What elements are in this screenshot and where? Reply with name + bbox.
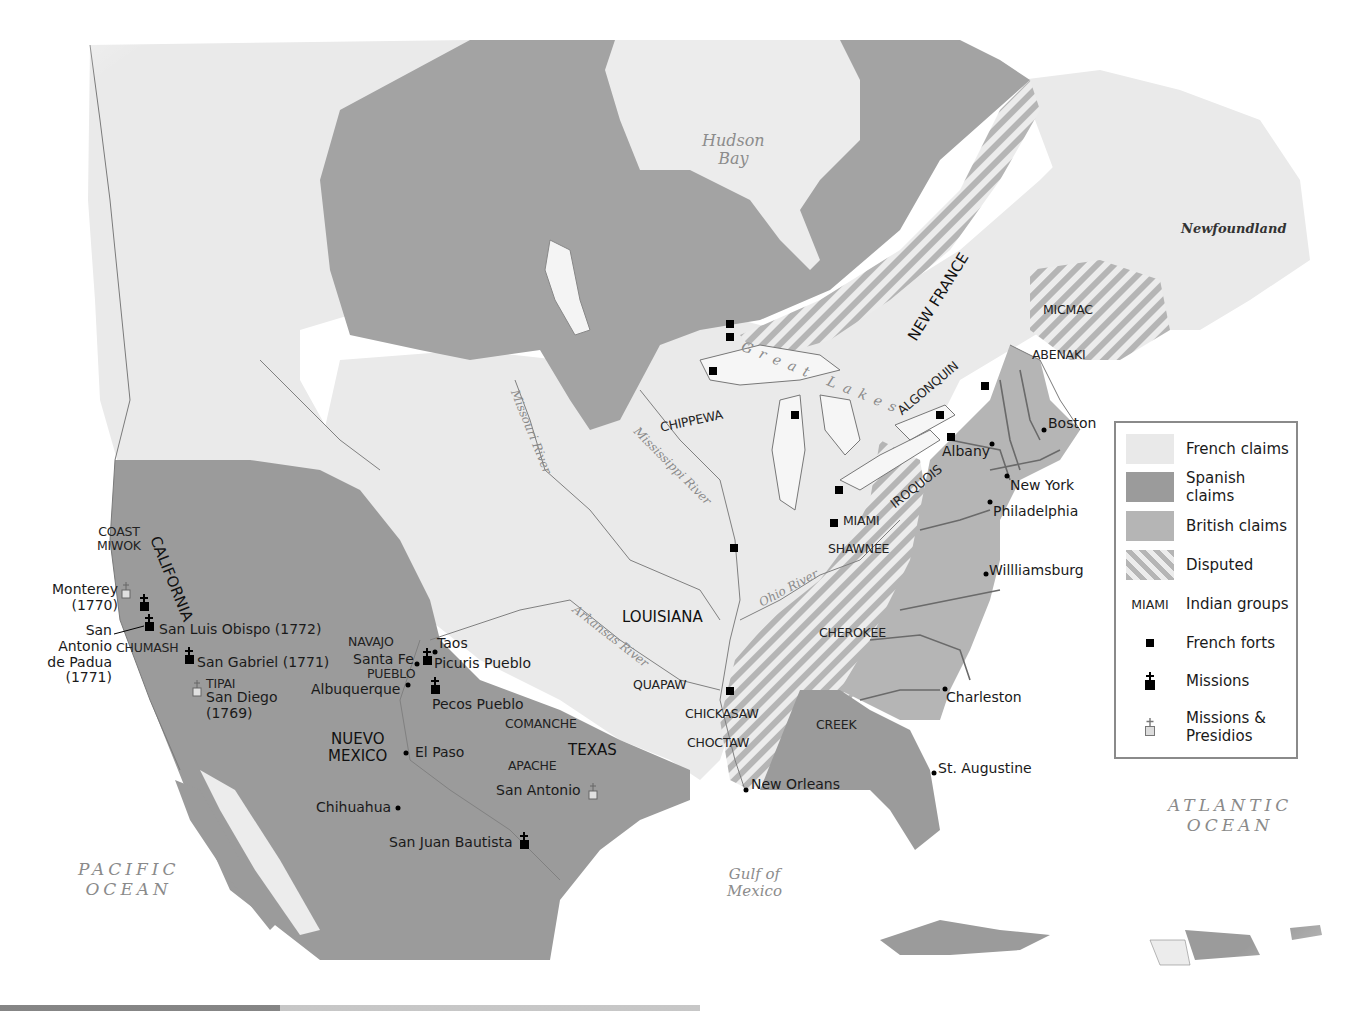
indian-group-comanche: COMANCHE: [505, 717, 577, 731]
legend-item-disputed: Disputed: [1126, 549, 1296, 581]
place-williamsburg: Willliamsburg: [989, 562, 1084, 578]
indian-group-pueblo: PUEBLO: [367, 667, 415, 681]
legend-item-missions: Missions: [1126, 665, 1296, 697]
cropped-caption-strip: [0, 1001, 700, 1011]
place-albuquerque: Albuquerque: [311, 681, 400, 697]
place-new-orleans: New Orleans: [751, 776, 840, 792]
texas-label: TEXAS: [568, 742, 617, 759]
place-san-antonio: San Antonio: [496, 782, 581, 798]
pacific-ocean-label: PACIFICOCEAN: [78, 860, 179, 899]
gulf-of-mexico-label: Gulf ofMexico: [727, 866, 782, 901]
place-chihuahua: Chihuahua: [316, 799, 391, 815]
place-san-antonio-de-padua: San Antonio de Padua (1771): [40, 623, 112, 686]
legend-item-missions-presidios: Missions & Presidios: [1126, 707, 1296, 747]
place-charleston: Charleston: [946, 689, 1022, 705]
indian-group-cherokee: CHEROKEE: [819, 626, 886, 640]
place-taos: Taos: [437, 635, 468, 651]
nuevo-mexico-label: NUEVOMEXICO: [328, 731, 387, 766]
british-claims-swatch: [1126, 511, 1174, 541]
place-monterey: Monterey(1770): [46, 581, 118, 613]
indian-group-miami: MIAMI: [843, 514, 880, 528]
louisiana-label: LOUISIANA: [622, 609, 703, 626]
indian-group-shawnee: SHAWNEE: [828, 542, 889, 556]
place-san-juan-bautista: San Juan Bautista: [389, 834, 513, 850]
mission-icon: [1126, 666, 1174, 696]
legend-item-indian-groups: MIAMI Indian groups: [1126, 588, 1296, 620]
disputed-swatch: [1126, 550, 1174, 580]
newfoundland-label: Newfoundland: [1181, 222, 1287, 237]
french-claims-swatch: [1126, 434, 1174, 464]
indian-group-micmac: MICMAC: [1043, 303, 1093, 317]
place-san-gabriel: San Gabriel (1771): [197, 654, 329, 670]
place-san-luis-obispo: San Luis Obispo (1772): [159, 621, 321, 637]
place-el-paso: El Paso: [415, 744, 464, 760]
indian-group-chickasaw: CHICKASAW: [685, 707, 759, 721]
place-picuris-pueblo: Picuris Pueblo: [434, 655, 531, 671]
place-boston: Boston: [1048, 415, 1096, 431]
place-philadelphia: Philadelphia: [993, 503, 1078, 519]
spanish-claims-swatch: [1126, 472, 1174, 502]
indian-group-navajo: NAVAJO: [348, 635, 394, 649]
fort-icon: [1126, 628, 1174, 658]
place-st-augustine: St. Augustine: [938, 760, 1032, 776]
place-san-diego: San Diego(1769): [206, 689, 278, 721]
place-albany: Albany: [942, 443, 990, 459]
indian-group-choctaw: CHOCTAW: [687, 736, 749, 750]
legend-item-spanish-claims: Spanish claims: [1126, 471, 1296, 503]
indian-group-apache: APACHE: [508, 759, 556, 773]
indian-group-creek: CREEK: [816, 718, 856, 732]
legend-item-french-forts: French forts: [1126, 627, 1296, 659]
place-pecos-pueblo: Pecos Pueblo: [432, 696, 524, 712]
place-new-york: New York: [1010, 477, 1074, 493]
legend-item-british-claims: British claims: [1126, 510, 1296, 542]
indian-group-sample: MIAMI: [1126, 589, 1174, 619]
indian-group-abenaki: ABENAKI: [1032, 348, 1085, 362]
indian-group-coast-miwok: COASTMIWOK: [97, 525, 141, 554]
legend-item-french-claims: French claims: [1126, 433, 1296, 465]
hudson-bay-label: HudsonBay: [702, 132, 765, 169]
place-santa-fe: Santa Fe: [353, 651, 414, 667]
indian-group-quapaw: QUAPAW: [633, 678, 686, 692]
mission-presidio-icon: [1126, 712, 1174, 742]
map-legend: French claims Spanish claims British cla…: [1114, 421, 1298, 759]
atlantic-ocean-label: ATLANTICOCEAN: [1168, 796, 1292, 835]
indian-group-chumash: CHUMASH: [116, 641, 179, 655]
